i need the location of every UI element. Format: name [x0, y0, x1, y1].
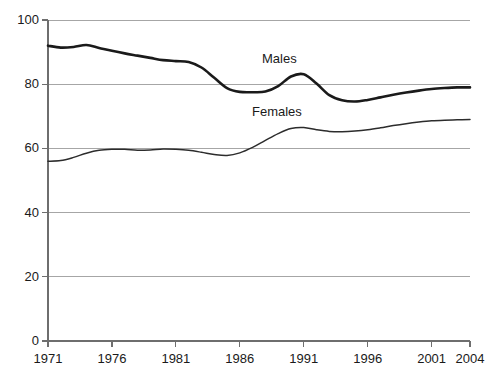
gridlines: [48, 20, 470, 277]
y-axis-label-60: 60: [25, 140, 39, 155]
x-axis-label-1981: 1981: [152, 351, 200, 366]
y-axis-label-80: 80: [25, 76, 39, 91]
x-axis-label-1971: 1971: [24, 351, 72, 366]
y-axis-label-20: 20: [25, 269, 39, 284]
chart-plot-area: [0, 0, 494, 376]
x-axis-ticks: [48, 341, 470, 347]
x-axis-label-1996: 1996: [344, 351, 392, 366]
line-chart: 020406080100 197119761981198619911996200…: [0, 0, 494, 376]
series-annotation-females: Females: [252, 104, 302, 119]
series-line-females: [48, 120, 470, 162]
y-axis-label-0: 0: [32, 333, 39, 348]
x-axis-label-2004: 2004: [446, 351, 494, 366]
series-annotation-males: Males: [262, 51, 297, 66]
series-line-males: [48, 45, 470, 102]
x-axis-label-1991: 1991: [280, 351, 328, 366]
x-axis-label-1976: 1976: [88, 351, 136, 366]
y-axis-label-40: 40: [25, 205, 39, 220]
y-axis-ticks: [42, 20, 48, 341]
y-axis-label-100: 100: [17, 12, 39, 27]
axis-lines: [48, 20, 470, 341]
x-axis-label-1986: 1986: [216, 351, 264, 366]
